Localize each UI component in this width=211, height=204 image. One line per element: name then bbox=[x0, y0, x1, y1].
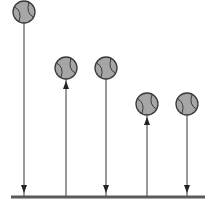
ball-2 bbox=[55, 57, 77, 196]
ball-drop-diagram bbox=[0, 0, 211, 204]
arrow-up-icon bbox=[144, 117, 150, 125]
ball-5 bbox=[176, 93, 198, 196]
tennis-ball-icon bbox=[95, 57, 117, 79]
arrow-up-icon bbox=[63, 81, 69, 89]
ball-1 bbox=[13, 1, 35, 196]
arrow-down-icon bbox=[21, 185, 27, 193]
arrow-down-icon bbox=[103, 185, 109, 193]
tennis-ball-icon bbox=[136, 93, 158, 115]
ball-3 bbox=[95, 57, 117, 196]
tennis-ball-icon bbox=[13, 1, 35, 23]
ball-4 bbox=[136, 93, 158, 196]
tennis-ball-icon bbox=[55, 57, 77, 79]
tennis-ball-icon bbox=[176, 93, 198, 115]
arrow-down-icon bbox=[184, 185, 190, 193]
